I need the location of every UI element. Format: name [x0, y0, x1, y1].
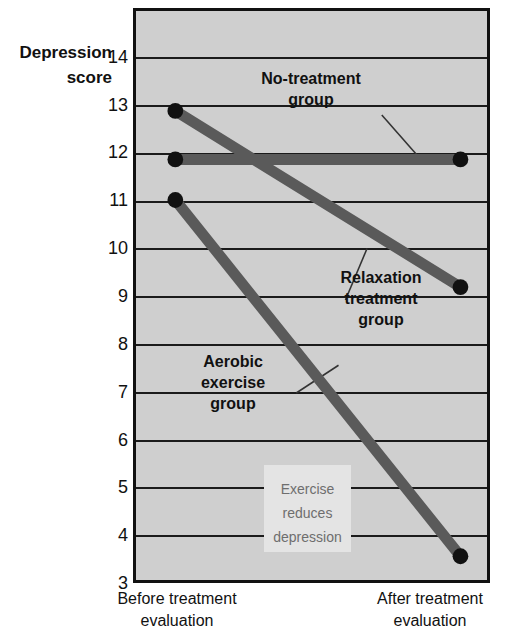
y-tick-8: 8 — [96, 334, 128, 355]
annotation-no-treatment-group: No-treatment group — [231, 68, 391, 110]
marker-relaxation-after — [453, 279, 469, 295]
annotation-no-treatment-line1: No-treatment — [231, 68, 391, 89]
y-tick-7: 7 — [96, 382, 128, 403]
x-axis-label-before: Before treatment evaluation — [92, 588, 262, 632]
marker-no-treatment-before — [167, 152, 183, 168]
marker-aerobic-before — [167, 192, 183, 208]
x-axis-label-after: After treatment evaluation — [350, 588, 510, 632]
marker-aerobic-after — [453, 548, 469, 564]
annotation-relaxation-line1: Relaxation — [311, 267, 451, 288]
annotation-relaxation-treatment-group: Relaxation treatment group — [311, 267, 451, 330]
y-axis-title-line2: score — [0, 65, 112, 90]
x-axis-label-after-line1: After treatment — [350, 588, 510, 610]
y-tick-13: 13 — [96, 95, 128, 116]
annotation-aerobic-line3: group — [168, 393, 298, 414]
y-tick-10: 10 — [96, 238, 128, 259]
annotation-aerobic-line2: exercise — [168, 372, 298, 393]
annotation-aerobic-line1: Aerobic — [168, 351, 298, 372]
marker-no-treatment-after — [453, 152, 469, 168]
depression-score-line-chart: Depression score 14 13 12 11 10 9 8 7 6 … — [0, 0, 512, 635]
x-axis-label-after-line2: evaluation — [350, 610, 510, 632]
y-tick-14: 14 — [96, 47, 128, 68]
plot-inner: Exercise reduces depression — [136, 11, 487, 580]
annotation-relaxation-line3: group — [311, 309, 451, 330]
x-axis-label-before-line2: evaluation — [92, 610, 262, 632]
y-tick-9: 9 — [96, 286, 128, 307]
annotation-no-treatment-line2: group — [231, 89, 391, 110]
y-tick-6: 6 — [96, 430, 128, 451]
annotation-relaxation-line2: treatment — [311, 288, 451, 309]
y-tick-11: 11 — [96, 190, 128, 211]
y-tick-4: 4 — [96, 525, 128, 546]
y-tick-5: 5 — [96, 477, 128, 498]
y-tick-12: 12 — [96, 142, 128, 163]
plot-area: Exercise reduces depression — [133, 8, 490, 583]
annotation-aerobic-exercise-group: Aerobic exercise group — [168, 351, 298, 414]
x-axis-label-before-line1: Before treatment — [92, 588, 262, 610]
marker-relaxation-before — [167, 103, 183, 119]
leader-line-no-treatment — [382, 115, 419, 158]
